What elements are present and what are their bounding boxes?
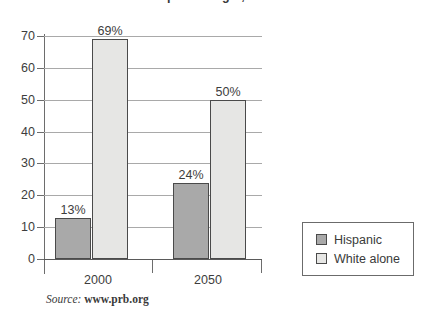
x-axis-category-label: 2050	[194, 273, 222, 287]
y-tick-0	[37, 259, 44, 260]
y-axis-tick-label: 30	[21, 156, 35, 170]
bar-value-label: 50%	[215, 85, 240, 99]
legend-item-label: Hispanic	[334, 233, 382, 247]
bar-value-label: 13%	[60, 203, 85, 217]
x-axis-category-label: 2000	[84, 273, 112, 287]
y-axis-tick-label: 40	[21, 125, 35, 139]
y-axis-tick-label: 50	[21, 93, 35, 107]
bar-2050-white-alone[interactable]: 50%	[210, 100, 246, 259]
legend-item-label: White alone	[334, 252, 400, 266]
y-tick-70	[37, 36, 44, 37]
y-axis-tick-label: 60	[21, 61, 35, 75]
source-url: www.prb.org	[84, 293, 149, 305]
y-axis-tick-label: 10	[21, 220, 35, 234]
x-axis-line	[44, 259, 262, 260]
legend-swatch-icon	[316, 234, 327, 245]
bar-2050-hispanic[interactable]: 24%	[173, 183, 209, 260]
y-tick-20	[37, 195, 44, 196]
x-axis-tick-middle	[152, 260, 153, 273]
gridline-70	[44, 36, 262, 37]
y-tick-30	[37, 163, 44, 164]
y-tick-50	[37, 100, 44, 101]
bar-2000-hispanic[interactable]: 13%	[55, 218, 91, 259]
bar-value-label: 69%	[97, 24, 122, 38]
y-tick-10	[37, 227, 44, 228]
y-axis-tick-label: 70	[21, 29, 35, 43]
bar-value-label: 24%	[178, 168, 203, 182]
x-axis-tick-start	[44, 260, 45, 273]
legend-item-hispanic[interactable]: Hispanic	[316, 230, 413, 249]
y-axis-line	[44, 34, 45, 274]
gridline-60	[44, 68, 262, 69]
x-axis-tick-end	[261, 260, 262, 273]
y-tick-40	[37, 132, 44, 133]
plot-area: 0 10 20 30 40 50 60	[44, 36, 262, 259]
y-axis-tick-label: 0	[28, 252, 35, 266]
source-note: Source: www.prb.org	[46, 293, 149, 305]
legend-swatch-icon	[316, 253, 327, 264]
y-axis-tick-label: 20	[21, 188, 35, 202]
source-prefix: Source:	[46, 293, 81, 305]
bar-chart-figure: White and Hispanic Origin, 2000 and 2050…	[0, 0, 421, 320]
chart-legend: Hispanic White alone	[302, 222, 414, 276]
y-tick-60	[37, 68, 44, 69]
x-axis: 2000 2050	[44, 259, 262, 293]
chart-title: White and Hispanic Origin, 2000 and 2050…	[0, 0, 421, 3]
legend-item-white-alone[interactable]: White alone	[316, 249, 413, 268]
bar-2000-white-alone[interactable]: 69%	[92, 39, 128, 259]
